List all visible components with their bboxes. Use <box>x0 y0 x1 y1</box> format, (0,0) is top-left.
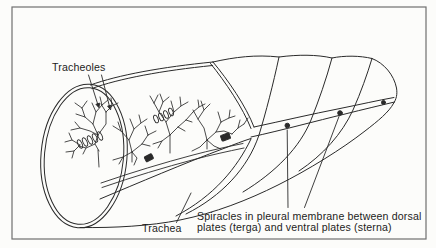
label-tracheoles: Tracheoles <box>52 62 106 73</box>
label-spiracles: Spiracles in pleural membrane between do… <box>197 211 421 233</box>
label-spiracles-line2: plates (terga) and ventral plates (stern… <box>197 222 421 233</box>
figure-root: Tracheoles Trachea Spiracles in pleural … <box>0 0 436 248</box>
label-trachea: Trachea <box>142 223 182 234</box>
spiracle-dot-2 <box>338 111 343 116</box>
spiracle-dot-1 <box>285 123 290 128</box>
spiracle-dot-3 <box>382 101 386 105</box>
